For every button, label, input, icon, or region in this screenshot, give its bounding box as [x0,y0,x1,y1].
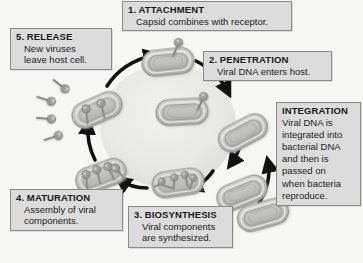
label-box-biosynthesis: 3. BIOSYNTHESIS Viral components are syn… [128,206,233,248]
integration-line-2: integrated into [282,129,355,141]
integration-line-1: Viral DNA is [282,117,355,129]
released-virus-3 [37,114,56,124]
attachment-line-1: Capsid combines with receptor. [136,16,286,28]
arrow-maturation-to-release [88,124,95,160]
attachment-body: Capsid combines with receptor. [128,16,286,28]
integration-heading: INTEGRATION [282,105,355,117]
label-box-integration: INTEGRATION Viral DNA is integrated into… [276,102,361,206]
released-virus-4 [43,130,63,144]
diagram-canvas: 1. ATTACHMENT Capsid combines with recep… [0,0,363,263]
released-viruses [36,77,71,144]
attachment-heading: 1. ATTACHMENT [128,4,286,16]
maturation-line-2: components. [24,215,117,227]
label-box-release: 5. RELEASE New viruses leave host cell. [10,28,112,70]
integration-line-3: bacterial DNA [282,141,355,153]
release-body: New viruses leave host cell. [16,43,106,66]
release-line-1: New viruses [24,43,106,55]
biosynthesis-line-2: are synthesized. [142,232,227,244]
integration-line-4: and then is [282,153,355,165]
integration-line-7: reproduce. [282,190,355,202]
released-virus-1 [51,77,71,95]
biosynthesis-heading: 3. BIOSYNTHESIS [134,209,227,221]
label-box-penetration: 2. PENETRATION Viral DNA enters host. [203,51,332,81]
release-heading: 5. RELEASE [16,31,106,43]
maturation-line-1: Assembly of viral [24,204,117,216]
biosynthesis-body: Viral components are synthesized. [134,221,227,244]
maturation-heading: 4. MATURATION [16,192,117,204]
integration-body: Viral DNA is integrated into bacterial D… [282,117,355,202]
released-virus-2 [36,93,56,107]
maturation-body: Assembly of viral components. [16,204,117,227]
penetration-heading: 2. PENETRATION [209,54,326,66]
integration-line-6: when bacteria [282,178,355,190]
release-line-2: leave host cell. [24,54,106,66]
penetration-body: Viral DNA enters host. [209,66,326,78]
biosynthesis-line-1: Viral components [142,221,227,233]
penetration-line-1: Viral DNA enters host. [217,66,326,78]
label-box-attachment: 1. ATTACHMENT Capsid combines with recep… [122,1,292,31]
label-box-maturation: 4. MATURATION Assembly of viral componen… [10,189,123,231]
integration-line-5: passed on [282,165,355,177]
